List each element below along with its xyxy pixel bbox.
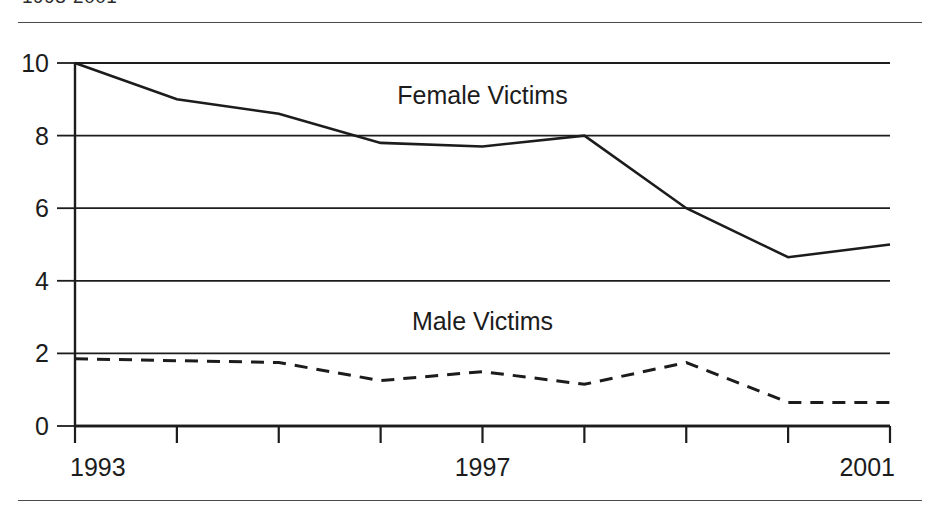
plot-area — [0, 0, 940, 517]
chart-figure: 1993-2001 1086420 199319972001 Female Vi… — [0, 0, 940, 517]
series-line-male — [75, 359, 890, 403]
series-line-female — [75, 63, 890, 257]
x-tick-marks-group — [75, 426, 890, 443]
